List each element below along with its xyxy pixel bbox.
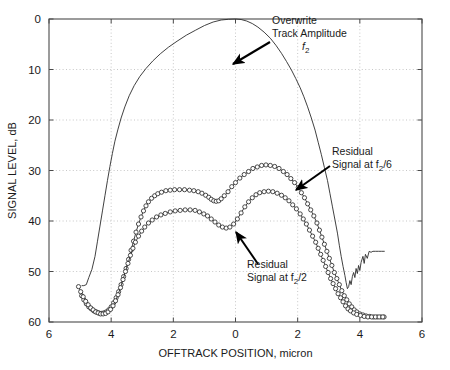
- series-marker: [139, 215, 143, 219]
- x-tick-label: 4: [108, 328, 115, 340]
- series-marker: [275, 191, 279, 195]
- series-marker: [239, 211, 243, 215]
- figure-container: 64202460102030405060OFFTRACK POSITION, m…: [0, 0, 450, 370]
- series-marker: [238, 176, 242, 180]
- series-marker: [329, 276, 333, 280]
- series-marker: [327, 256, 331, 260]
- gridlines: [49, 19, 422, 322]
- series-residual-signal-at-f2-2: [76, 189, 385, 319]
- series-marker: [222, 194, 226, 198]
- series-line: [79, 191, 383, 317]
- annotation-line-1: Overwrite: [272, 14, 317, 26]
- series-marker: [321, 258, 325, 262]
- annotation-line-2: Track Amplitude: [272, 27, 347, 39]
- y-tick-label: 10: [28, 64, 41, 76]
- series-marker: [173, 209, 177, 213]
- x-tick-labels: 6420246: [46, 328, 425, 340]
- annotation-text-residual-signal-f2-over-2: ResidualSignal at f2/2: [247, 258, 307, 286]
- y-tick-label: 50: [28, 266, 41, 278]
- x-tick-label: 4: [357, 328, 364, 340]
- series-marker: [144, 204, 148, 208]
- series-marker: [128, 253, 132, 257]
- series-marker: [150, 218, 154, 222]
- series-marker: [243, 205, 247, 209]
- series-marker: [309, 208, 313, 212]
- series-marker: [146, 221, 150, 225]
- series-marker: [294, 207, 298, 211]
- series-marker: [273, 164, 277, 168]
- series-marker: [301, 217, 305, 221]
- series-marker: [154, 215, 158, 219]
- series-marker: [285, 172, 289, 176]
- series-marker: [182, 188, 186, 192]
- y-tick-label: 40: [28, 215, 41, 227]
- series-marker: [76, 285, 80, 289]
- x-axis-title: OFFTRACK POSITION, micron: [158, 347, 312, 359]
- y-tick-label: 60: [28, 316, 41, 328]
- series-marker: [316, 246, 320, 250]
- series-marker: [320, 235, 324, 239]
- series-marker: [136, 234, 140, 238]
- series-marker: [341, 300, 345, 304]
- series-marker: [330, 263, 334, 267]
- series-marker: [133, 240, 137, 244]
- series-marker: [126, 261, 130, 265]
- y-tick-label: 30: [28, 165, 41, 177]
- annotation-line-3-sub: 2: [305, 46, 310, 55]
- series-marker: [325, 249, 329, 253]
- series-marker: [131, 246, 135, 250]
- series-marker: [164, 189, 168, 193]
- series-marker: [159, 190, 163, 194]
- y-axis-title: SIGNAL LEVEL, dB: [6, 122, 18, 219]
- series-marker: [306, 202, 310, 206]
- series-marker: [159, 213, 163, 217]
- series-marker: [140, 229, 144, 233]
- annotation-line-2: Signal at f: [247, 271, 294, 283]
- y-tick-label: 0: [35, 13, 41, 25]
- series-marker: [233, 181, 237, 185]
- series-marker: [268, 163, 272, 167]
- series-marker: [340, 289, 344, 293]
- series-marker: [172, 188, 176, 192]
- series-marker: [271, 190, 275, 194]
- series-marker: [287, 199, 291, 203]
- series-marker: [262, 190, 266, 194]
- series-marker: [187, 188, 191, 192]
- series-marker: [121, 277, 125, 281]
- series-marker: [258, 191, 262, 195]
- series-marker: [336, 292, 340, 296]
- series-marker: [113, 299, 117, 303]
- series-marker: [332, 270, 336, 274]
- series-marker: [228, 225, 232, 229]
- series-marker: [314, 240, 318, 244]
- series-marker: [209, 217, 213, 221]
- signal-level-vs-offtrack-position-chart: 64202460102030405060OFFTRACK POSITION, m…: [0, 0, 450, 370]
- series-marker: [319, 252, 323, 256]
- series-marker: [246, 169, 250, 173]
- series-marker: [304, 222, 308, 226]
- series-marker: [312, 214, 316, 218]
- series-marker: [193, 208, 197, 212]
- series-marker: [79, 290, 83, 294]
- series-marker: [337, 283, 341, 287]
- series-marker: [134, 230, 138, 234]
- series-marker: [255, 165, 259, 169]
- series-marker: [118, 286, 122, 290]
- series-marker: [324, 264, 328, 268]
- series-marker: [178, 208, 182, 212]
- series-marker: [81, 295, 85, 299]
- x-tick-label: 6: [419, 328, 425, 340]
- series-marker: [168, 210, 172, 214]
- annotation-text-residual-signal-f2-over-6: ResidualSignal at f2/6: [332, 145, 392, 173]
- series-marker: [146, 200, 150, 204]
- series-marker: [260, 163, 264, 167]
- annotation-line-2-tail: /2: [298, 271, 307, 283]
- annotation-arrow-overwrite-track-amplitude: [233, 42, 270, 64]
- series-marker: [136, 222, 140, 226]
- y-tick-labels: 0102030405060: [28, 13, 41, 328]
- series-marker: [226, 190, 230, 194]
- series-marker: [242, 172, 246, 176]
- series-marker: [292, 181, 296, 185]
- series-marker: [213, 220, 217, 224]
- x-tick-label: 2: [170, 328, 176, 340]
